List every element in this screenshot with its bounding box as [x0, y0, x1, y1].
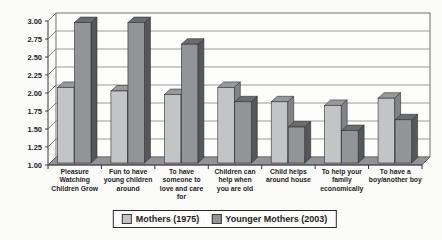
y-tick-label: 3.00 [27, 17, 42, 26]
bar-mothers-1975-5 [325, 105, 342, 163]
bar-younger-mothers-2003-3 [235, 102, 252, 163]
y-tick-connector [48, 139, 56, 147]
y-tick-connector [48, 103, 56, 111]
bar-younger-mothers-2003-6 [395, 120, 412, 163]
y-tick-label: 2.50 [27, 53, 42, 62]
legend-label-younger-mothers-2003: Younger Mothers (2003) [225, 214, 327, 224]
category-label: PleasureWatchingChildren Grow [51, 168, 99, 192]
bar-younger-mothers-2003-3-side [251, 96, 257, 163]
category-label: Child helpsaround house [266, 168, 311, 183]
category-label: Children canhelp whenyou are old [214, 168, 255, 193]
bar-mothers-1975-3 [218, 87, 235, 163]
y-tick-label: 2.75 [27, 35, 42, 44]
legend: Mothers (1975) Younger Mothers (2003) [113, 210, 337, 228]
bar-younger-mothers-2003-1 [128, 23, 145, 163]
bar-mothers-1975-6 [378, 98, 395, 163]
y-tick-label: 1.50 [27, 125, 42, 134]
bar-younger-mothers-2003-4-side [305, 122, 311, 164]
bar-younger-mothers-2003-5-side [358, 125, 364, 163]
category-label: To havesomeone tolove and carefor [160, 168, 204, 200]
legend-item-mothers-1975: Mothers (1975) [122, 214, 200, 224]
bar-chart-figure: 1.001.251.501.752.002.252.502.753.00Plea… [0, 0, 442, 240]
legend-item-younger-mothers-2003: Younger Mothers (2003) [211, 214, 327, 224]
bar-younger-mothers-2003-0 [75, 23, 92, 163]
y-tick-label: 1.00 [27, 161, 42, 170]
y-tick-connector [48, 85, 56, 93]
y-tick-connector [48, 31, 56, 39]
y-tick-connector [48, 13, 56, 21]
bar-younger-mothers-2003-2-side [198, 39, 204, 163]
y-tick-connector [48, 49, 56, 57]
bar-younger-mothers-2003-6-side [412, 114, 418, 163]
y-tick-connector [48, 67, 56, 75]
bar-mothers-1975-2 [164, 95, 181, 163]
bar-chart-canvas: 1.001.251.501.752.002.252.502.753.00Plea… [0, 0, 442, 206]
category-label: To have aboy/another boy [369, 168, 422, 184]
y-tick-label: 2.25 [27, 71, 42, 80]
y-tick-label: 1.25 [27, 143, 42, 152]
bar-younger-mothers-2003-4 [288, 127, 305, 163]
category-label: To help yourfamilyeconomically [320, 168, 363, 193]
bar-younger-mothers-2003-0-side [91, 17, 97, 163]
legend-label-mothers-1975: Mothers (1975) [136, 214, 200, 224]
bar-mothers-1975-4 [271, 102, 288, 163]
y-tick-label: 2.00 [27, 89, 42, 98]
legend-swatch-younger-mothers-2003 [211, 214, 221, 224]
bar-younger-mothers-2003-1-side [144, 17, 150, 163]
bar-younger-mothers-2003-5 [342, 131, 359, 163]
bar-mothers-1975-1 [111, 91, 128, 163]
bar-mothers-1975-0 [58, 87, 75, 163]
legend-swatch-mothers-1975 [122, 214, 132, 224]
y-tick-label: 1.75 [27, 107, 42, 116]
bar-younger-mothers-2003-2 [181, 44, 198, 163]
y-tick-connector [48, 121, 56, 129]
category-label: Fun to haveyoung childrenaround [104, 168, 153, 192]
